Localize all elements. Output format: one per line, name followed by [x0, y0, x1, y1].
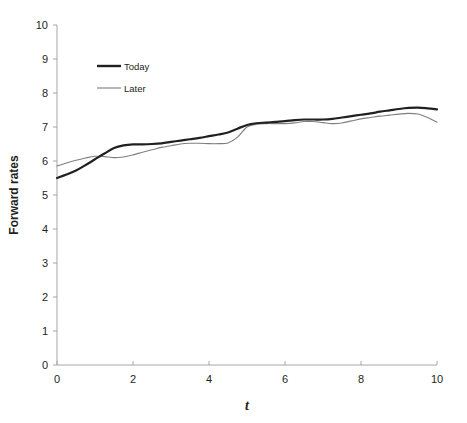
y-axis-ticks: [53, 25, 57, 365]
chart-canvas: 012345678910 0246810 TodayLater Forward …: [0, 0, 467, 423]
y-tick-label: 6: [42, 155, 48, 167]
legend-label-later: Later: [124, 83, 146, 94]
x-axis-group: 0246810: [54, 361, 443, 385]
y-tick-label: 1: [42, 325, 48, 337]
y-axis-tick-labels: 012345678910: [36, 19, 48, 371]
y-axis-group: 012345678910: [36, 19, 57, 371]
x-axis-tick-labels: 0246810: [54, 373, 443, 385]
y-axis-title: Forward rates: [7, 155, 21, 235]
x-tick-label: 2: [130, 373, 136, 385]
series-line-today: [57, 108, 437, 178]
x-axis-title: t: [245, 398, 250, 413]
data-series-group: [57, 108, 437, 178]
y-tick-label: 5: [42, 189, 48, 201]
x-tick-label: 4: [206, 373, 212, 385]
x-tick-label: 6: [282, 373, 288, 385]
legend-label-today: Today: [124, 61, 150, 72]
y-tick-label: 8: [42, 87, 48, 99]
x-tick-label: 0: [54, 373, 60, 385]
series-line-later: [57, 113, 437, 166]
y-tick-label: 7: [42, 121, 48, 133]
y-tick-label: 0: [42, 359, 48, 371]
chart-legend: TodayLater: [97, 61, 150, 94]
y-tick-label: 4: [42, 223, 48, 235]
x-tick-label: 8: [358, 373, 364, 385]
forward-rates-chart: 012345678910 0246810 TodayLater Forward …: [0, 0, 467, 423]
y-tick-label: 10: [36, 19, 48, 31]
y-tick-label: 2: [42, 291, 48, 303]
x-tick-label: 10: [431, 373, 443, 385]
y-tick-label: 9: [42, 53, 48, 65]
x-axis-ticks: [57, 361, 437, 365]
y-tick-label: 3: [42, 257, 48, 269]
